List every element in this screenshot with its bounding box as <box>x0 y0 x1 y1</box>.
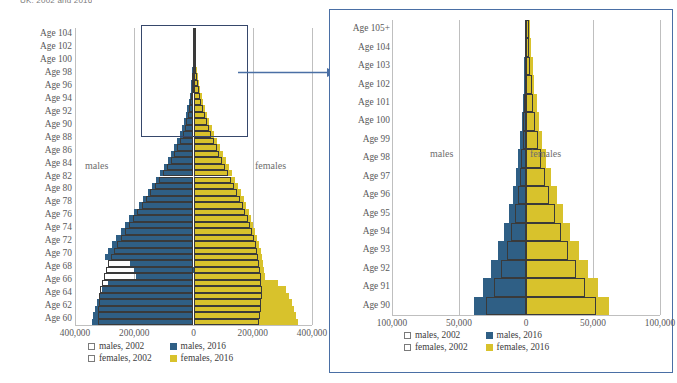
legend-label: females, 2002 <box>415 342 468 352</box>
age-tick-label: Age 98 <box>45 68 72 77</box>
pyramid-row <box>392 204 660 222</box>
x-tick-label: 0 <box>191 328 196 338</box>
legend-label: males, 2002 <box>99 341 144 351</box>
legend-item[interactable]: males, 2016 <box>486 330 550 340</box>
square-filled-icon <box>170 355 177 362</box>
overview-males-annotation: males <box>85 160 108 171</box>
pyramid-row <box>392 260 660 278</box>
age-tick-label: Age 99 <box>363 135 390 144</box>
outline-male-2002 <box>518 186 526 204</box>
age-tick-label: Age 104 <box>358 43 390 52</box>
age-tick-label: Age 100 <box>40 55 72 64</box>
age-tick-label: Age 80 <box>45 184 72 193</box>
outline-male-2002 <box>507 241 526 259</box>
age-tick-label: Age 82 <box>45 172 72 181</box>
zoomed-females-annotation: females <box>530 148 561 159</box>
age-tick-label: Age 94 <box>363 227 390 236</box>
x-tick-label: 0 <box>524 318 529 328</box>
outline-female-2002 <box>526 94 533 112</box>
legend-item[interactable]: males, 2016 <box>170 341 234 351</box>
overview-females-annotation: females <box>255 160 286 171</box>
x-tick-label: 400,000 <box>60 328 90 338</box>
outline-female-2002 <box>526 131 538 149</box>
age-tick-label: Age 90 <box>363 301 390 310</box>
zoom-panel-frame: Age 105+Age 104Age 103Age 102Age 101Age … <box>329 9 673 373</box>
age-tick-label: Age 96 <box>45 81 72 90</box>
outline-female-2002 <box>526 278 585 296</box>
age-tick-label: Age 66 <box>45 275 72 284</box>
pyramid-row <box>392 20 660 38</box>
pyramid-row <box>392 168 660 186</box>
legend-item[interactable]: females, 2016 <box>170 353 234 363</box>
age-tick-label: Age 102 <box>40 42 72 51</box>
age-tick-label: Age 72 <box>45 236 72 245</box>
age-tick-label: Age 96 <box>363 190 390 199</box>
pyramid-row <box>392 241 660 259</box>
outline-female-2002 <box>526 75 532 93</box>
x-tick-label: 400,000 <box>297 328 327 338</box>
square-filled-icon <box>170 343 177 350</box>
x-tick-label: 100,000 <box>377 318 407 328</box>
legend-label: females, 2016 <box>181 353 234 363</box>
legend-label: females, 2016 <box>497 342 550 352</box>
age-tick-label: Age 98 <box>363 153 390 162</box>
pyramid-row <box>392 278 660 296</box>
zoomed-chart: Age 105+Age 104Age 103Age 102Age 101Age … <box>330 10 670 370</box>
age-tick-label: Age 60 <box>45 314 72 323</box>
age-tick-label: Age 84 <box>45 159 72 168</box>
overview-chart: Age 104Age 102Age 100Age 98Age 96Age 94A… <box>0 14 320 380</box>
age-tick-label: Age 68 <box>45 262 72 271</box>
age-tick-label: Age 103 <box>358 61 390 70</box>
legend-item[interactable]: females, 2002 <box>404 342 468 352</box>
outline-female-2002 <box>526 38 529 56</box>
x-axis-line <box>75 325 312 326</box>
legend-item[interactable]: males, 2002 <box>404 330 468 340</box>
age-tick-label: Age 104 <box>40 29 72 38</box>
age-tick-label: Age 76 <box>45 210 72 219</box>
outline-male-2002 <box>515 204 526 222</box>
zoomed-plot-area <box>392 20 660 315</box>
age-tick-label: Age 88 <box>45 133 72 142</box>
age-tick-label: Age 91 <box>363 282 390 291</box>
outline-female-2002 <box>526 168 545 186</box>
overview-plot-area <box>75 28 312 325</box>
square-filled-icon <box>486 344 493 351</box>
age-tick-label: Age 102 <box>358 80 390 89</box>
outline-female-2002 <box>526 57 530 75</box>
age-tick-label: Age 78 <box>45 197 72 206</box>
age-tick-label: Age 105+ <box>353 24 390 33</box>
x-tick-label: 50,000 <box>580 318 606 328</box>
x-tick-label: 50,000 <box>446 318 472 328</box>
legend-label: males, 2016 <box>181 341 226 351</box>
pyramid-row <box>392 297 660 315</box>
age-tick-label: Age 97 <box>363 172 390 181</box>
pyramid-row <box>392 57 660 75</box>
outline-male-2002 <box>494 278 526 296</box>
age-tick-label: Age 90 <box>45 120 72 129</box>
legend-label: females, 2002 <box>99 353 152 363</box>
outline-male-2002 <box>98 319 193 325</box>
x-tick-label: 100,000 <box>645 318 675 328</box>
age-tick-label: Age 62 <box>45 301 72 310</box>
age-tick-label: Age 93 <box>363 245 390 254</box>
x-axis-line <box>392 315 660 316</box>
age-tick-label: Age 64 <box>45 288 72 297</box>
x-tick-label: 200,000 <box>119 328 149 338</box>
pyramid-row <box>392 38 660 56</box>
pyramid-row <box>392 223 660 241</box>
screenshot-root: UK, 2002 and 2016 Age 104Age 102Age 100A… <box>0 0 677 383</box>
overview-legend: males, 2002males, 2016females, 2002femal… <box>88 341 233 363</box>
x-tick-label: 200,000 <box>238 328 268 338</box>
legend-item[interactable]: females, 2016 <box>486 342 550 352</box>
square-outline-icon <box>404 332 411 339</box>
legend-item[interactable]: males, 2002 <box>88 341 152 351</box>
outline-female-2002 <box>526 204 555 222</box>
age-tick-label: Age 100 <box>358 116 390 125</box>
pyramid-row <box>392 186 660 204</box>
age-tick-label: Age 74 <box>45 223 72 232</box>
square-outline-icon <box>404 344 411 351</box>
age-tick-label: Age 86 <box>45 146 72 155</box>
outline-male-2002 <box>486 297 526 315</box>
legend-item[interactable]: females, 2002 <box>88 353 152 363</box>
zoomed-legend: males, 2002males, 2016females, 2002femal… <box>404 330 549 352</box>
